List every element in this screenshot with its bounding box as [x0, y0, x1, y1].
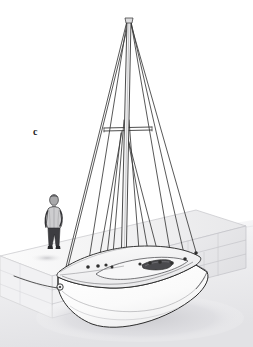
backstay-fitting [194, 251, 198, 255]
masthead-fitting [125, 18, 133, 23]
sailboat-illustration [0, 0, 253, 347]
bow-forestay-fitting [57, 284, 63, 290]
chainplate-port-2 [96, 264, 100, 268]
chainplate-port-3 [104, 263, 107, 266]
backstay [130, 21, 196, 252]
panel-label: c [33, 127, 37, 137]
chainplate-stbd-4 [170, 261, 174, 265]
chainplate-port-1 [86, 265, 90, 269]
chainplate-stbd-5 [183, 257, 187, 261]
chainplate-stbd-1 [138, 262, 141, 265]
person-shoe-left [48, 246, 54, 249]
chainplate-mid [111, 266, 114, 269]
person-shoe-right [56, 246, 61, 249]
person-figure [45, 195, 62, 249]
chainplate-stbd-3 [158, 260, 162, 264]
chainplate-stbd-2 [148, 261, 152, 265]
figure-root: c [0, 0, 253, 347]
